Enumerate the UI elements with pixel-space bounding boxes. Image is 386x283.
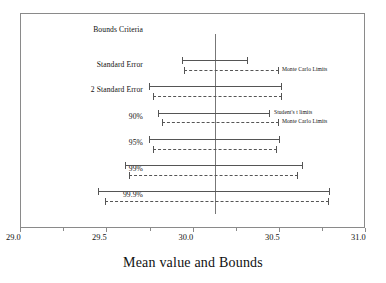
x-axis-title: Mean value and Bounds [0,254,386,272]
axis-tick-29-5 [106,228,107,232]
cap-right [278,67,279,74]
interval-line [153,149,277,150]
interval-line [149,139,280,140]
interval-line [105,201,329,202]
axis-tick-minor-29-25 [63,228,64,231]
axis-tick-label-30-0: 30.0 [179,233,194,243]
row-label-95-percent: 95% [25,138,143,147]
cap-right [279,136,280,143]
cap-right [269,110,270,117]
interval-line [129,175,298,176]
cap-right [297,172,298,179]
cap-right [281,83,282,90]
cap-right [281,93,282,100]
interval-99-9-percent-monte-carlo [105,198,329,205]
cap-right [302,162,303,169]
interval-line [125,165,303,166]
cap-right [278,119,279,126]
axis-tick-label-29-5: 29.5 [92,233,107,243]
interval-95-percent-monte-carlo [153,146,277,153]
interval-90-percent-monte-carlo [162,119,279,126]
row-label-90-percent: 90% [25,112,143,121]
cap-right [329,188,330,195]
axis-tick-label-29-0: 29.0 [6,233,21,243]
interval-line [162,122,279,123]
axis-tick-30-0 [193,228,194,232]
axis-tick-label-30-5: 30.5 [265,233,280,243]
annotation-90-percent-monte-carlo: Monte Carlo Limits [282,118,327,125]
annotation-standard-error-monte-carlo: Monte Carlo Limits [282,66,327,73]
interval-standard-error-students-t [182,57,248,64]
interval-2-standard-error-monte-carlo [153,93,282,100]
cap-right [276,146,277,153]
interval-90-percent-students-t [158,110,270,117]
axis-tick-minor-30-75 [322,228,323,231]
row-label-standard-error: Standard Error [25,60,143,69]
annotation-90-percent-students-t: Student's t limits [274,109,312,116]
interval-line [149,86,282,87]
interval-99-9-percent-students-t [98,188,331,195]
cap-right [328,198,329,205]
interval-line [153,96,282,97]
axis-tick-29-0 [20,228,21,232]
cap-right [247,57,248,64]
chart-figure: Bounds Criteria Standard Error 2 Standar… [0,0,386,283]
interval-line [158,113,270,114]
interval-2-standard-error-students-t [149,83,282,90]
bounds-criteria-header: Bounds Criteria [25,25,143,34]
interval-line [184,70,279,71]
interval-standard-error-monte-carlo [184,67,279,74]
axis-tick-30-5 [279,228,280,232]
interval-99-percent-monte-carlo [129,172,298,179]
interval-99-percent-students-t [125,162,303,169]
axis-tick-minor-29-75 [150,228,151,231]
interval-95-percent-students-t [149,136,280,143]
row-label-2-standard-error: 2 Standard Error [25,85,143,94]
axis-tick-label-31-0: 31.0 [351,233,366,243]
axis-tick-31-0 [365,228,366,232]
interval-line [98,191,331,192]
axis-tick-minor-30-25 [236,228,237,231]
interval-line [182,60,248,61]
